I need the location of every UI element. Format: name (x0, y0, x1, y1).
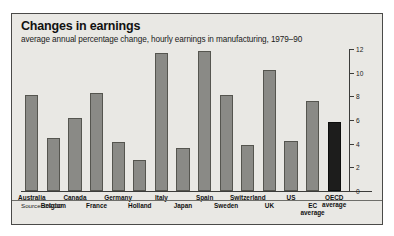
y-tick (350, 49, 354, 50)
x-label-japan: Japan (174, 202, 192, 209)
bar-switzerland (241, 145, 254, 191)
bar-france (90, 93, 103, 191)
y-tick-label: 10 (356, 69, 363, 76)
y-tick (350, 120, 354, 121)
chart-title: Changes in earnings (21, 19, 140, 33)
bar-germany (112, 142, 125, 191)
y-tick (350, 144, 354, 145)
y-tick (350, 73, 354, 74)
x-label-france: France (86, 202, 107, 209)
y-tick (350, 96, 354, 97)
bar-ec-average (306, 101, 319, 191)
x-label-holland: Holland (128, 202, 151, 209)
bar-holland (133, 160, 146, 191)
footer-divider (12, 200, 382, 201)
bar-belgium (47, 138, 60, 191)
x-label-ec-average: ECaverage (301, 202, 325, 216)
bar-australia (25, 95, 38, 191)
y-tick (350, 191, 354, 192)
x-label-oecd-average: OECDaverage (322, 194, 346, 208)
y-tick-label: 8 (356, 93, 360, 100)
bar-uk (263, 70, 276, 191)
y-tick-label: 2 (356, 164, 360, 171)
y-tick-label: 4 (356, 140, 360, 147)
y-tick-label: 6 (356, 117, 360, 124)
axis-baseline (21, 191, 372, 192)
bar-oecd-average (328, 122, 341, 191)
bar-japan (176, 148, 189, 191)
x-label-uk: UK (265, 202, 274, 209)
plot-area (21, 49, 345, 191)
bar-italy (155, 53, 168, 191)
x-axis-labels: AustraliaBelgiumCanadaFranceGermanyHolla… (21, 193, 372, 215)
y-tick (350, 167, 354, 168)
chart-subtitle: average annual percentage change, hourly… (21, 35, 302, 44)
bar-spain (198, 51, 211, 191)
x-label-sweden: Sweden (214, 202, 238, 209)
y-tick-label: 12 (356, 46, 363, 53)
bar-sweden (220, 95, 233, 191)
chart-figure: Changes in earnings average annual perce… (11, 13, 383, 225)
bar-us (284, 141, 297, 191)
bar-canada (68, 118, 81, 191)
source-note: Source: OECD (21, 202, 62, 209)
y-axis: 024681012 (349, 49, 372, 191)
